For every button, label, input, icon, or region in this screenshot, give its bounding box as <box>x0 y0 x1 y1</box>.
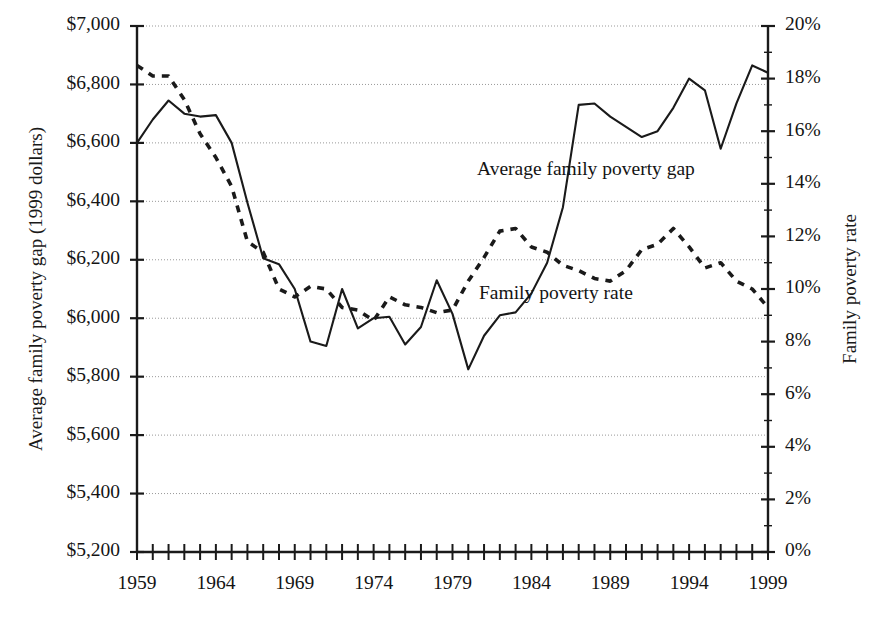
y-tick-label-right: 4% <box>785 434 811 455</box>
x-tick-label: 1999 <box>749 572 788 593</box>
x-tick-label: 1964 <box>196 572 235 593</box>
y-tick-label-right: 20% <box>785 13 821 34</box>
chart-figure: $7,000$6,800$6,600$6,400$6,200$6,000$5,8… <box>0 0 877 625</box>
annotation-average-family-poverty-gap: Average family poverty gap <box>477 158 695 179</box>
x-tick-label: 1959 <box>118 572 157 593</box>
y-tick-label-left: $6,800 <box>66 72 120 93</box>
x-tick-label: 1984 <box>512 572 551 593</box>
y-tick-label-right: 16% <box>785 119 821 140</box>
y-axis-title-right: Family poverty rate <box>839 214 860 364</box>
x-tick-label: 1979 <box>433 572 472 593</box>
chart-background <box>0 0 877 625</box>
y-tick-label-left: $5,400 <box>66 481 120 502</box>
y-tick-label-right: 2% <box>785 487 811 508</box>
x-tick-label: 1989 <box>591 572 630 593</box>
x-tick-label: 1969 <box>275 572 314 593</box>
x-tick-label: 1994 <box>670 572 709 593</box>
y-tick-label-right: 18% <box>785 66 821 87</box>
x-tick-label: 1974 <box>354 572 393 593</box>
poverty-gap-and-rate-line-chart: $7,000$6,800$6,600$6,400$6,200$6,000$5,8… <box>0 0 877 625</box>
y-tick-label-right: 6% <box>785 382 811 403</box>
y-tick-label-right: 8% <box>785 329 811 350</box>
y-tick-label-left: $6,000 <box>66 306 120 327</box>
y-tick-label-left: $5,600 <box>66 423 120 444</box>
y-tick-label-left: $6,600 <box>66 130 120 151</box>
x-axis-tick-labels: 195919641969197419791984198919941999 <box>118 572 788 593</box>
y-tick-label-right: 12% <box>785 224 821 245</box>
y-tick-label-right: 14% <box>785 171 821 192</box>
y-tick-label-left: $6,400 <box>66 189 120 210</box>
y-tick-label-left: $5,800 <box>66 364 120 385</box>
y-axis-title-left: Average family poverty gap (1999 dollars… <box>25 127 47 451</box>
annotation-family-poverty-rate: Family poverty rate <box>479 282 633 303</box>
y-tick-label-left: $6,200 <box>66 247 120 268</box>
y-tick-label-left: $7,000 <box>66 13 120 34</box>
y-tick-label-right: 10% <box>785 276 821 297</box>
y-tick-label-right: 0% <box>785 539 811 560</box>
y-tick-label-left: $5,200 <box>66 539 120 560</box>
